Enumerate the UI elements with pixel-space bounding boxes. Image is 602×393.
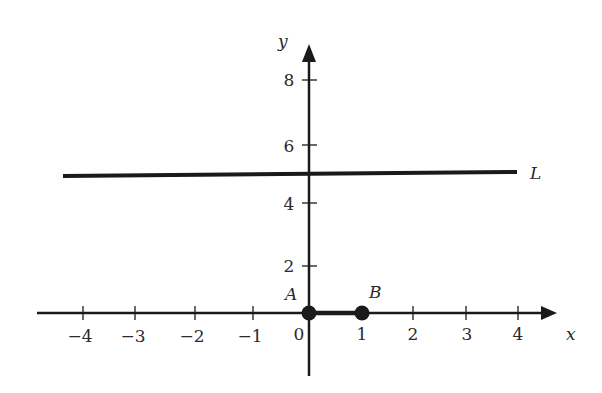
line-L: L	[63, 163, 541, 183]
x-axis	[37, 306, 557, 320]
x-tick-label: −1	[237, 326, 262, 346]
y-tick-label: 6	[284, 136, 295, 156]
x-tick-label: −3	[120, 326, 145, 346]
x-tick-label: 1	[357, 324, 368, 344]
point-A: A	[283, 284, 317, 321]
x-tick-label: −4	[67, 326, 92, 346]
x-tick-label: 0	[294, 324, 305, 344]
point-A-label: A	[283, 284, 297, 304]
x-tick-label: 4	[513, 324, 524, 344]
x-axis-label: x	[566, 324, 576, 344]
x-tick-label: −2	[179, 326, 204, 346]
x-tick-labels: −4 −3 −2 −1 0 1 2 3 4	[67, 324, 523, 346]
y-axis-arrow-icon	[302, 44, 316, 62]
y-tick-label: 8	[284, 70, 295, 90]
coordinate-plane: −4 −3 −2 −1 0 1 2 3 4 2 4 6 8 y x L A B	[0, 0, 602, 393]
point-B: B	[355, 282, 382, 321]
point-B-dot-icon	[355, 306, 370, 321]
y-tick-label: 2	[284, 256, 295, 276]
y-tick-label: 4	[284, 194, 295, 214]
line-L-label: L	[529, 163, 541, 183]
x-axis-arrow-icon	[541, 306, 557, 320]
y-axis-label: y	[277, 31, 288, 51]
x-tick-label: 3	[462, 324, 473, 344]
point-A-dot-icon	[302, 306, 317, 321]
x-tick-label: 2	[408, 324, 419, 344]
point-B-label: B	[368, 282, 382, 302]
